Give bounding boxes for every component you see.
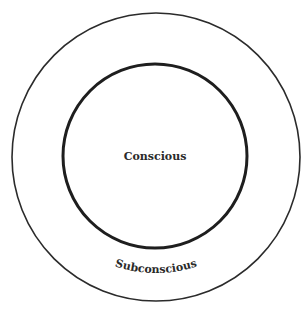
- conscious-subconscious-diagram: Conscious Subconscious: [0, 0, 307, 314]
- subconscious-label: Subconscious: [114, 257, 199, 276]
- diagram-canvas: Conscious Subconscious: [0, 0, 307, 314]
- conscious-label: Conscious: [124, 150, 187, 163]
- subconscious-label-path: Subconscious: [114, 257, 199, 276]
